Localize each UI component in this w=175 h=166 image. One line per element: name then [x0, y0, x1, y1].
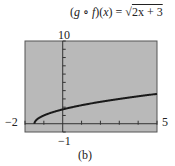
- figure-caption: (b): [78, 148, 92, 163]
- plot-area: [0, 0, 175, 166]
- plot-background: [25, 41, 157, 132]
